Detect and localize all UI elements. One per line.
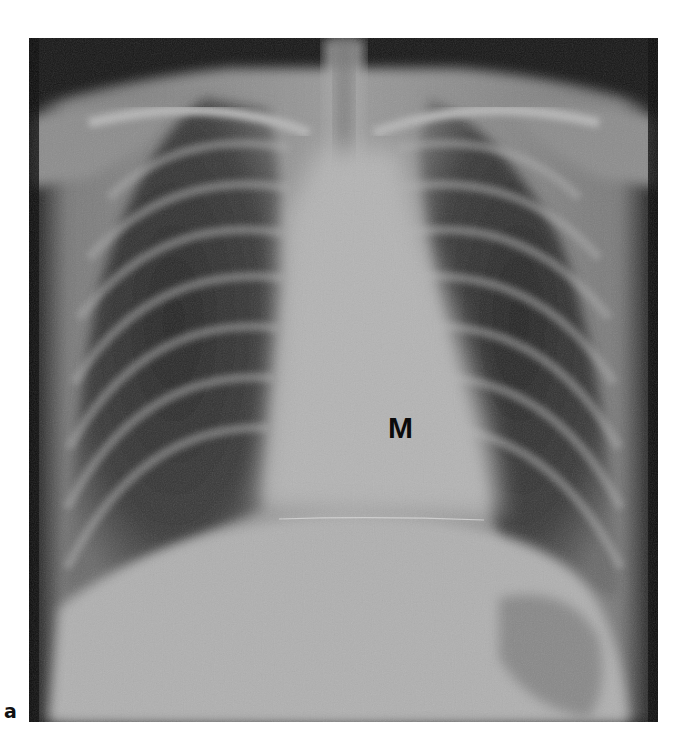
annotation-label-m: M [388,411,413,445]
xray-rendering [29,38,658,722]
chest-xray-image: M [29,38,658,722]
panel-label: a [4,700,17,722]
